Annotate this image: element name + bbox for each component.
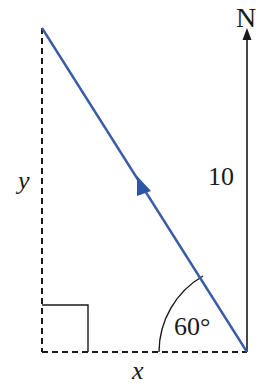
right-angle-marker	[42, 305, 88, 352]
y-label: y	[18, 166, 30, 196]
length-label: 10	[208, 162, 234, 192]
vector-diagram: N 10 y 60° x	[0, 0, 261, 387]
vector-arrowhead-icon	[137, 176, 151, 196]
diagram-canvas	[0, 0, 261, 387]
x-label: x	[132, 356, 144, 386]
angle-label: 60°	[174, 312, 210, 342]
north-label: N	[236, 2, 256, 34]
